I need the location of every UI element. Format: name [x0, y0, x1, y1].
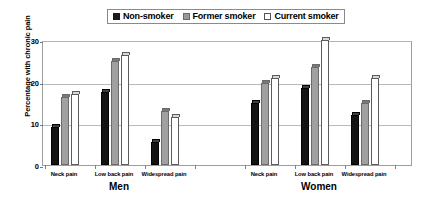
x-axis-category-label: Widespread pain: [342, 171, 387, 178]
x-axis-category-label: Neck pain: [51, 171, 78, 178]
x-axis-category-label: Low back pain: [95, 171, 134, 178]
bar-front-face: [261, 83, 269, 165]
bar-front-face: [361, 103, 369, 166]
x-axis-tick-mark: [195, 165, 196, 169]
legend-item-former-smoker: Former smoker: [183, 12, 256, 21]
bar: [251, 100, 259, 166]
chart-container: Non-smoker Former smoker Current smoker …: [0, 0, 434, 206]
bar: [371, 75, 379, 166]
y-axis-title: Percentage with chronic pain: [24, 0, 32, 140]
bar-front-face: [371, 78, 379, 166]
bar-front-face: [111, 61, 119, 165]
legend-label-current-smoker: Current smoker: [274, 12, 338, 21]
bar-front-face: [171, 117, 179, 165]
x-axis-tick-mark: [295, 165, 296, 169]
legend-item-non-smoker: Non-smoker: [113, 12, 174, 21]
bar-front-face: [51, 127, 59, 165]
plot-area: 0102030: [42, 41, 412, 166]
bar: [51, 124, 59, 165]
legend-swatch-white-icon: [264, 13, 271, 20]
bar: [111, 58, 119, 165]
x-axis-category-label: Low back pain: [295, 171, 334, 178]
bar: [301, 85, 309, 166]
bar: [151, 139, 159, 165]
bar-front-face: [351, 115, 359, 165]
bar-front-face: [161, 111, 169, 165]
legend-label-former-smoker: Former smoker: [193, 12, 256, 21]
bar-front-face: [251, 103, 259, 166]
legend-label-non-smoker: Non-smoker: [123, 12, 174, 21]
x-axis-group-label: Women: [301, 181, 337, 193]
bar: [171, 114, 179, 165]
x-axis-tick-mark: [145, 165, 146, 169]
bar-front-face: [61, 97, 69, 165]
bar: [161, 108, 169, 165]
x-axis-tick-mark: [345, 165, 346, 169]
bar: [311, 64, 319, 165]
bar-front-face: [151, 142, 159, 165]
chart-legend: Non-smoker Former smoker Current smoker: [107, 9, 345, 24]
bar: [71, 91, 79, 165]
bar: [121, 52, 129, 165]
bar: [271, 75, 279, 166]
x-axis-tick-mark: [95, 165, 96, 169]
bar-front-face: [121, 55, 129, 165]
x-axis-category-label: Widespread pain: [142, 171, 187, 178]
bar-front-face: [301, 88, 309, 166]
bar-front-face: [271, 78, 279, 166]
x-axis-group-label: Men: [109, 181, 129, 193]
bar-front-face: [321, 40, 329, 165]
x-axis-tick-mark: [45, 165, 46, 169]
x-axis-category-label: Neck pain: [251, 171, 278, 178]
bar: [261, 80, 269, 165]
bar-front-face: [311, 67, 319, 165]
legend-item-current-smoker: Current smoker: [264, 12, 338, 21]
bar-front-face: [101, 92, 109, 165]
y-axis-tick-mark: [40, 167, 43, 168]
bars-layer: [43, 42, 411, 165]
bar: [361, 100, 369, 166]
x-axis-tick-mark: [245, 165, 246, 169]
x-axis-tick-mark: [395, 165, 396, 169]
bar-front-face: [71, 94, 79, 165]
bar: [101, 89, 109, 165]
bar: [321, 37, 329, 165]
legend-swatch-gray-icon: [183, 13, 190, 20]
bar: [351, 112, 359, 165]
legend-swatch-black-icon: [113, 13, 120, 20]
bar: [61, 94, 69, 165]
